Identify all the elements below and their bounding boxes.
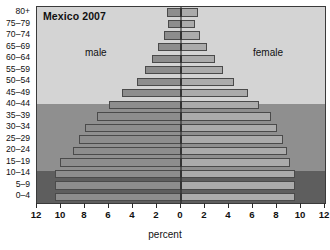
- y-axis-tick-label: 50–54: [6, 75, 30, 87]
- x-axis-tick-mark: [36, 203, 37, 208]
- bar-female: [181, 170, 295, 178]
- x-axis-tick-label: 8: [273, 209, 278, 220]
- x-axis-tick-mark: [300, 203, 301, 208]
- y-axis-tick-label: 55–59: [6, 64, 30, 76]
- bar-male: [79, 135, 181, 143]
- bar-male: [97, 112, 181, 120]
- x-axis-tick-mark: [324, 203, 325, 208]
- series-label-female: female: [253, 47, 283, 58]
- x-axis-tick-mark: [276, 203, 277, 208]
- x-axis-tick-mark: [60, 203, 61, 208]
- x-axis-tick-mark: [108, 203, 109, 208]
- bar-male: [55, 181, 181, 189]
- x-axis-tick-label: 12: [31, 209, 42, 220]
- x-axis-tick-label: 2: [201, 209, 206, 220]
- y-axis-tick-label: 15–19: [6, 156, 30, 168]
- y-axis-tick-label: 65–69: [6, 41, 30, 53]
- bar-male: [122, 89, 181, 97]
- x-axis-tick-mark: [180, 203, 181, 208]
- bar-female: [181, 20, 195, 28]
- x-axis-tick-label: 10: [55, 209, 66, 220]
- center-axis-line: [181, 7, 182, 203]
- x-axis-tick-mark: [204, 203, 205, 208]
- x-axis-tick-label: 0: [177, 209, 182, 220]
- bar-male: [85, 124, 181, 132]
- population-pyramid-chart: 80+75–7970–7465–6960–6455–5950–5445–4940…: [0, 0, 330, 250]
- bar-male: [109, 101, 181, 109]
- x-axis-tick-label: 4: [225, 209, 230, 220]
- plot-area: Mexico 2007 male female: [36, 6, 326, 204]
- y-axis-tick-label: 30–34: [6, 121, 30, 133]
- bar-female: [181, 66, 223, 74]
- bar-male: [55, 193, 181, 201]
- x-axis-tick-mark: [84, 203, 85, 208]
- bar-female: [181, 31, 200, 39]
- bar-female: [181, 101, 259, 109]
- bar-female: [181, 181, 295, 189]
- x-axis-tick-label: 6: [105, 209, 110, 220]
- x-axis-tick-label: 6: [249, 209, 254, 220]
- bar-female: [181, 124, 277, 132]
- series-label-male: male: [85, 47, 107, 58]
- bar-male: [164, 31, 181, 39]
- y-axis-tick-label: 75–79: [6, 18, 30, 30]
- x-axis-tick-label: 8: [81, 209, 86, 220]
- bar-male: [55, 170, 181, 178]
- bar-male: [137, 78, 181, 86]
- x-axis-tick-label: 12: [319, 209, 330, 220]
- x-axis-tick-label: 2: [153, 209, 158, 220]
- bar-male: [158, 43, 181, 51]
- bar-female: [181, 78, 234, 86]
- bar-male: [60, 158, 181, 166]
- y-axis-labels: 80+75–7970–7465–6960–6455–5950–5445–4940…: [0, 6, 33, 202]
- x-axis-tick-label: 10: [295, 209, 306, 220]
- y-axis-tick-label: 60–64: [6, 52, 30, 64]
- bar-female: [181, 147, 287, 155]
- chart-title: Mexico 2007: [43, 10, 106, 22]
- y-axis-tick-label: 45–49: [6, 87, 30, 99]
- bar-female: [181, 89, 248, 97]
- y-axis-tick-label: 0–4: [16, 190, 30, 202]
- y-axis-tick-label: 35–39: [6, 110, 30, 122]
- bar-male: [168, 20, 181, 28]
- bar-male: [145, 66, 181, 74]
- x-axis-tick-mark: [156, 203, 157, 208]
- x-axis-tick-mark: [228, 203, 229, 208]
- y-axis-tick-label: 40–44: [6, 98, 30, 110]
- bar-female: [181, 158, 290, 166]
- bar-female: [181, 193, 295, 201]
- y-axis-tick-label: 10–14: [6, 167, 30, 179]
- y-axis-tick-label: 5–9: [16, 179, 30, 191]
- x-axis: 12108642024681012: [36, 203, 326, 227]
- x-axis-tick-mark: [132, 203, 133, 208]
- bar-female: [181, 8, 198, 16]
- bar-male: [73, 147, 181, 155]
- y-axis-tick-label: 80+: [15, 6, 30, 18]
- x-axis-tick-label: 4: [129, 209, 134, 220]
- bar-male: [167, 8, 181, 16]
- y-axis-tick-label: 70–74: [6, 29, 30, 41]
- y-axis-tick-label: 20–24: [6, 144, 30, 156]
- bar-male: [152, 55, 181, 63]
- bar-female: [181, 135, 283, 143]
- x-axis-tick-mark: [252, 203, 253, 208]
- bar-female: [181, 112, 271, 120]
- x-axis-title: percent: [0, 229, 330, 240]
- y-axis-tick-label: 25–29: [6, 133, 30, 145]
- bar-female: [181, 43, 207, 51]
- bar-female: [181, 55, 215, 63]
